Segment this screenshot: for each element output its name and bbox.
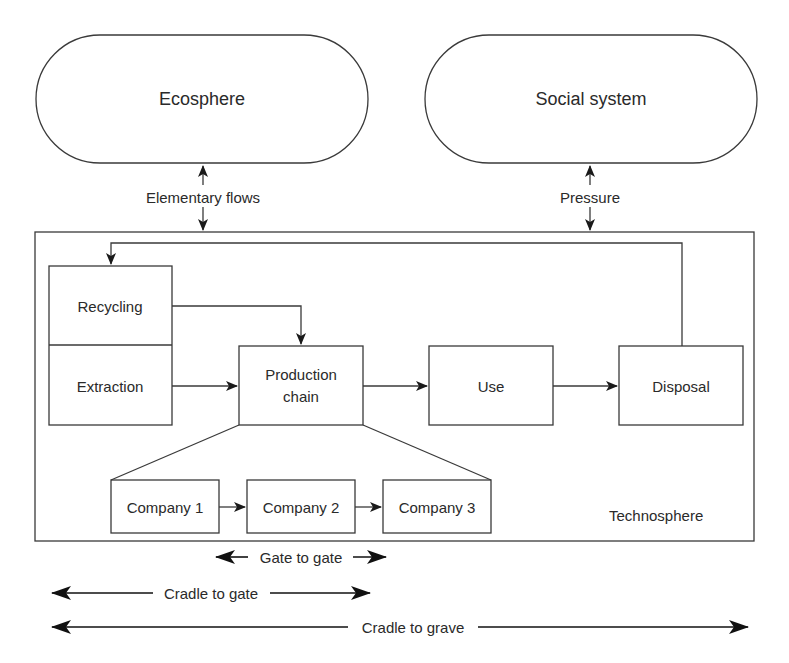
cradle-to-grave-label: Cradle to grave (362, 620, 465, 635)
production-chain-line2: chain (265, 386, 337, 408)
ecosphere-label: Ecosphere (159, 90, 245, 108)
gate-to-gate-label: Gate to gate (260, 550, 343, 565)
disposal-node: Disposal (652, 379, 710, 394)
pressure-label: Pressure (559, 190, 621, 205)
extraction-node: Extraction (77, 379, 144, 394)
elementary-flows-label: Elementary flows (145, 190, 261, 205)
company-2-node: Company 2 (263, 500, 340, 515)
use-node: Use (478, 379, 505, 394)
production-chain-line1: Production (265, 364, 337, 386)
company-3-node: Company 3 (399, 500, 476, 515)
production-chain-node: Production chain (265, 364, 337, 408)
company-1-node: Company 1 (127, 500, 204, 515)
diagram-canvas (0, 0, 789, 663)
recycling-node: Recycling (77, 299, 142, 314)
technosphere-label: Technosphere (609, 508, 703, 523)
cradle-to-gate-label: Cradle to gate (164, 586, 258, 601)
social-system-label: Social system (535, 90, 646, 108)
